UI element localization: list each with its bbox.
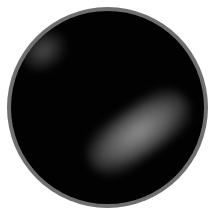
faint-cell-blob xyxy=(15,23,72,77)
microscope-field xyxy=(11,11,204,204)
microscope-frame xyxy=(7,7,208,208)
bright-cell-blob xyxy=(77,79,200,186)
